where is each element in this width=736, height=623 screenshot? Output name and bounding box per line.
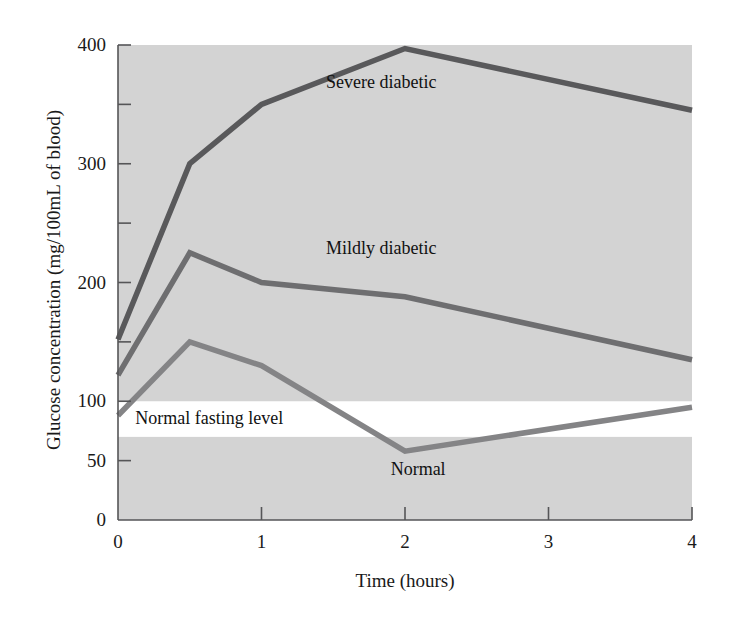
- series-label-severe-diabetic: Severe diabetic: [326, 72, 436, 93]
- y-tick-label-50: 50: [36, 451, 106, 470]
- x-tick-label-1: 1: [242, 532, 282, 551]
- glucose-tolerance-line-chart: [0, 0, 736, 623]
- chart-figure: Glucose concentration (mg/100mL of blood…: [0, 0, 736, 623]
- x-tick-label-4: 4: [672, 532, 712, 551]
- y-tick-label-300: 300: [36, 154, 106, 173]
- x-tick-label-2: 2: [385, 532, 425, 551]
- series-label-normal: Normal: [391, 459, 446, 480]
- x-axis-title: Time (hours): [118, 570, 692, 592]
- x-tick-label-0: 0: [98, 532, 138, 551]
- y-tick-label-400: 400: [36, 35, 106, 54]
- series-label-mildly-diabetic: Mildly diabetic: [326, 238, 436, 259]
- x-tick-label-3: 3: [529, 532, 569, 551]
- band-label-normal-fasting-level: Normal fasting level: [135, 408, 283, 429]
- y-tick-label-100: 100: [36, 391, 106, 410]
- y-tick-label-0: 0: [36, 510, 106, 529]
- y-tick-label-200: 200: [36, 273, 106, 292]
